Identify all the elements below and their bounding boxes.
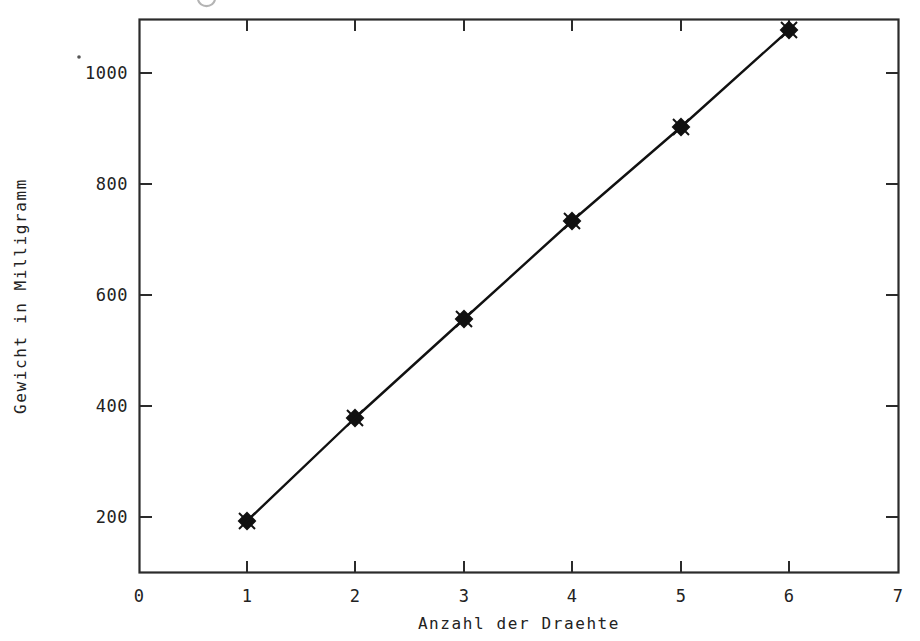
- x-axis-title: Anzahl der Draehte: [418, 614, 620, 633]
- y-tick-labels: 200 400 600 800 1000: [85, 63, 128, 527]
- plot-frame: [140, 20, 899, 573]
- y-axis-ticks-right: [886, 73, 898, 517]
- data-line: [247, 30, 789, 521]
- data-point-marker: [347, 410, 363, 426]
- data-point-marker: [564, 213, 580, 229]
- x-tick-label: 0: [134, 586, 145, 606]
- x-axis-ticks: [247, 561, 789, 572]
- x-tick-label: 2: [350, 586, 361, 606]
- data-point-marker: [239, 513, 255, 529]
- scan-speck-left: [77, 55, 81, 59]
- x-tick-labels: 0 1 2 3 4 5 6 7: [134, 586, 904, 606]
- x-tick-label: 6: [784, 586, 795, 606]
- chart-container: 200 400 600 800 1000 0 1 2 3 4 5 6 7 Anz…: [0, 0, 920, 641]
- x-tick-label: 4: [567, 586, 578, 606]
- x-tick-label: 3: [459, 586, 470, 606]
- data-point-marker: [456, 311, 472, 327]
- data-point-marker: [781, 22, 797, 38]
- line-chart-svg: 200 400 600 800 1000 0 1 2 3 4 5 6 7 Anz…: [0, 0, 920, 641]
- y-axis-title: Gewicht in Milligramm: [11, 178, 30, 414]
- y-tick-label: 1000: [85, 63, 128, 83]
- x-axis-ticks-top: [247, 20, 789, 31]
- x-tick-label: 5: [676, 586, 687, 606]
- y-tick-label: 600: [96, 285, 128, 305]
- x-tick-label: 1: [242, 586, 253, 606]
- y-tick-label: 800: [96, 174, 128, 194]
- data-point-marker: [673, 119, 689, 135]
- y-tick-label: 400: [96, 396, 128, 416]
- y-tick-label: 200: [96, 507, 128, 527]
- y-axis-ticks: [140, 73, 152, 517]
- scan-speck-top: [198, 0, 215, 6]
- x-tick-label: 7: [893, 586, 904, 606]
